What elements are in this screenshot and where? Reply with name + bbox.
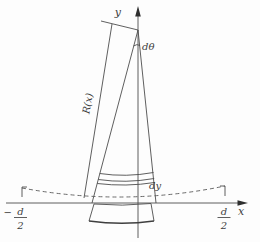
y-axis-label: y [114, 6, 122, 19]
minus-sign: − [4, 207, 12, 218]
dy-label: dy [149, 180, 161, 191]
slab-top-line [100, 173, 154, 176]
apex-perpendicular-line [101, 21, 138, 30]
right-end-tick [220, 186, 225, 196]
lower-element-bottom-edge [89, 221, 154, 223]
left-fraction-numerator: d [17, 206, 23, 217]
slab-upper-line [98, 179, 154, 182]
radius-label: R(x) [80, 92, 95, 116]
left-end-coordinate: − d 2 [4, 206, 27, 231]
x-axis-label: x [238, 205, 245, 218]
diagram-canvas: x y R(x) dθ dy − d [0, 0, 260, 242]
lower-element-top-edge [94, 204, 151, 206]
right-end-coordinate: d 2 [218, 206, 231, 231]
neutral-surface-curve [22, 186, 225, 197]
lower-element-left-side [89, 204, 94, 221]
wedge-left-line [92, 30, 138, 203]
slab-lower-line [97, 183, 154, 186]
bent-rod-curvature-figure: x y R(x) dθ dy − d [0, 0, 260, 242]
right-fraction-numerator: d [221, 206, 227, 217]
right-fraction-denominator: 2 [220, 220, 227, 231]
wedge-right-line [138, 30, 156, 203]
y-axis-arrowhead-icon [135, 6, 141, 17]
left-fraction-denominator: 2 [16, 220, 23, 231]
d-theta-label: dθ [142, 41, 154, 52]
lower-element-right-side [151, 204, 154, 222]
